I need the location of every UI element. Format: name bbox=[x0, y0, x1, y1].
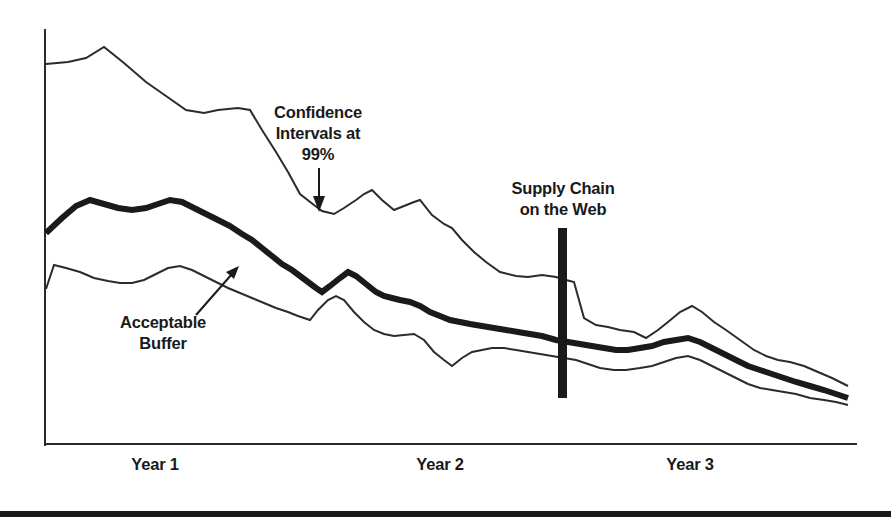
chart-background bbox=[0, 0, 891, 526]
x-axis-tick-year-3: Year 3 bbox=[666, 455, 713, 473]
forecast-line-chart: Confidence Intervals at 99% Acceptable B… bbox=[0, 0, 891, 526]
bottom-divider-rule bbox=[0, 511, 891, 517]
buffer-annotation-line-2: Buffer bbox=[139, 334, 187, 352]
chart-container: Confidence Intervals at 99% Acceptable B… bbox=[0, 0, 891, 526]
supply-chain-annotation-line-1: Supply Chain bbox=[511, 179, 614, 197]
event-marker-bar bbox=[558, 228, 567, 398]
x-axis-tick-year-2: Year 2 bbox=[416, 455, 463, 473]
confidence-annotation-line-3: 99% bbox=[302, 145, 335, 163]
supply-chain-annotation-line-2: on the Web bbox=[520, 200, 607, 218]
confidence-annotation-line-1: Confidence bbox=[274, 103, 362, 121]
confidence-annotation-line-2: Intervals at bbox=[276, 124, 361, 142]
buffer-annotation-line-1: Acceptable bbox=[120, 313, 206, 331]
x-axis-tick-year-1: Year 1 bbox=[131, 455, 178, 473]
